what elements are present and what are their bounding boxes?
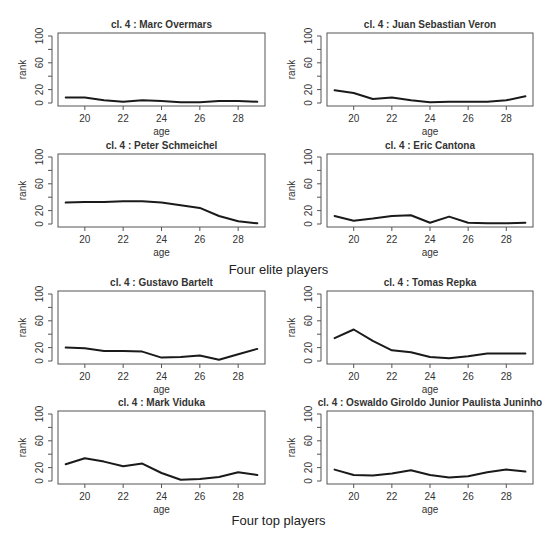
x-tick-label: 28 — [233, 491, 245, 502]
x-tick-label: 24 — [156, 371, 168, 382]
panel-title: cl. 4 : Gustavo Bartelt — [110, 277, 213, 288]
caption-top-players: Four top players — [0, 513, 557, 528]
x-tick-label: 20 — [79, 113, 91, 124]
x-tick-label: 28 — [501, 491, 513, 502]
x-tick-label: 26 — [463, 491, 475, 502]
y-tick-label: 60 — [34, 178, 45, 190]
x-tick-label: 24 — [424, 113, 436, 124]
x-tick-label: 26 — [463, 371, 475, 382]
y-axis-label: rank — [17, 437, 28, 457]
y-tick-label: 100 — [34, 27, 45, 44]
x-tick-label: 26 — [463, 234, 475, 245]
line-chart-panel: cl. 4 : Gustavo Bartelt02060100rank20222… — [17, 277, 265, 395]
x-tick-label: 22 — [386, 371, 398, 382]
rank-series-line — [66, 201, 258, 223]
panel-title: cl. 4 : Marc Overmars — [111, 19, 213, 30]
x-tick-label: 20 — [348, 371, 360, 382]
y-axis-label: rank — [17, 59, 28, 79]
x-axis-label: age — [422, 126, 439, 137]
x-tick-label: 28 — [501, 234, 513, 245]
y-tick-label: 0 — [34, 478, 45, 484]
y-tick-label: 100 — [303, 285, 314, 302]
x-tick-label: 28 — [233, 371, 245, 382]
x-tick-label: 26 — [194, 371, 206, 382]
y-tick-label: 20 — [34, 462, 45, 474]
y-tick-label: 60 — [303, 57, 314, 69]
y-tick-label: 0 — [34, 358, 45, 364]
plot-frame — [327, 154, 533, 227]
y-tick-label: 100 — [303, 148, 314, 165]
x-tick-label: 24 — [156, 113, 168, 124]
y-tick-label: 60 — [303, 315, 314, 327]
x-tick-label: 20 — [79, 491, 91, 502]
y-tick-label: 20 — [34, 205, 45, 217]
y-axis-label: rank — [286, 180, 297, 200]
y-tick-label: 100 — [34, 285, 45, 302]
panel-title: cl. 4 : Eric Cantona — [385, 140, 475, 151]
x-tick-label: 22 — [118, 371, 130, 382]
x-tick-label: 22 — [118, 234, 130, 245]
y-tick-label: 60 — [34, 315, 45, 327]
y-axis-label: rank — [17, 317, 28, 337]
line-chart-panel: cl. 4 : Peter Schmeichel02060100rank2022… — [17, 140, 265, 258]
x-axis-label: age — [422, 247, 439, 258]
caption-elite-players: Four elite players — [0, 262, 557, 277]
rank-series-line — [335, 330, 526, 359]
panel-title: cl. 4 : Oswaldo Giroldo Junior Paulista … — [318, 397, 542, 408]
rank-series-line — [335, 215, 526, 223]
rank-series-line — [66, 458, 258, 480]
x-tick-label: 20 — [348, 234, 360, 245]
y-tick-label: 0 — [303, 478, 314, 484]
y-axis-label: rank — [286, 59, 297, 79]
x-tick-label: 24 — [156, 491, 168, 502]
y-tick-label: 60 — [303, 178, 314, 190]
line-chart-panel: cl. 4 : Oswaldo Giroldo Junior Paulista … — [286, 397, 542, 515]
y-tick-label: 20 — [34, 342, 45, 354]
y-tick-label: 0 — [34, 100, 45, 106]
x-tick-label: 20 — [348, 113, 360, 124]
x-tick-label: 24 — [156, 234, 168, 245]
plot-frame — [58, 154, 265, 227]
plot-frame — [58, 33, 265, 106]
y-tick-label: 100 — [34, 405, 45, 422]
y-tick-label: 60 — [303, 435, 314, 447]
rank-series-line — [335, 470, 526, 478]
x-tick-label: 24 — [424, 371, 436, 382]
y-tick-label: 100 — [34, 148, 45, 165]
x-axis-label: age — [153, 384, 170, 395]
plot-frame — [327, 411, 533, 484]
x-tick-label: 22 — [386, 234, 398, 245]
x-tick-label: 24 — [424, 234, 436, 245]
y-tick-label: 0 — [303, 100, 314, 106]
line-chart-panel: cl. 4 : Juan Sebastian Veron02060100rank… — [286, 19, 533, 137]
y-axis-label: rank — [17, 180, 28, 200]
figure: cl. 4 : Marc Overmars02060100rank2022242… — [0, 0, 557, 548]
rank-series-line — [66, 98, 258, 103]
x-tick-label: 22 — [386, 113, 398, 124]
x-tick-label: 28 — [233, 113, 245, 124]
x-tick-label: 26 — [194, 491, 206, 502]
y-tick-label: 20 — [303, 205, 314, 217]
x-tick-label: 26 — [194, 113, 206, 124]
panel-title: cl. 4 : Peter Schmeichel — [106, 140, 218, 151]
y-tick-label: 100 — [303, 405, 314, 422]
x-tick-label: 20 — [79, 371, 91, 382]
y-tick-label: 0 — [34, 221, 45, 227]
rank-series-line — [335, 90, 526, 102]
x-tick-label: 24 — [424, 491, 436, 502]
line-chart-panel: cl. 4 : Marc Overmars02060100rank2022242… — [17, 19, 265, 137]
line-chart-panel: cl. 4 : Mark Viduka02060100rank202224262… — [17, 397, 265, 515]
x-tick-label: 26 — [194, 234, 206, 245]
x-tick-label: 28 — [501, 371, 513, 382]
x-axis-label: age — [422, 384, 439, 395]
x-tick-label: 26 — [463, 113, 475, 124]
y-tick-label: 0 — [303, 221, 314, 227]
panel-title: cl. 4 : Mark Viduka — [118, 397, 206, 408]
x-axis-label: age — [153, 126, 170, 137]
y-tick-label: 20 — [303, 84, 314, 96]
x-tick-label: 20 — [348, 491, 360, 502]
x-axis-label: age — [153, 247, 170, 258]
y-tick-label: 20 — [303, 462, 314, 474]
y-axis-label: rank — [286, 317, 297, 337]
y-tick-label: 60 — [34, 57, 45, 69]
